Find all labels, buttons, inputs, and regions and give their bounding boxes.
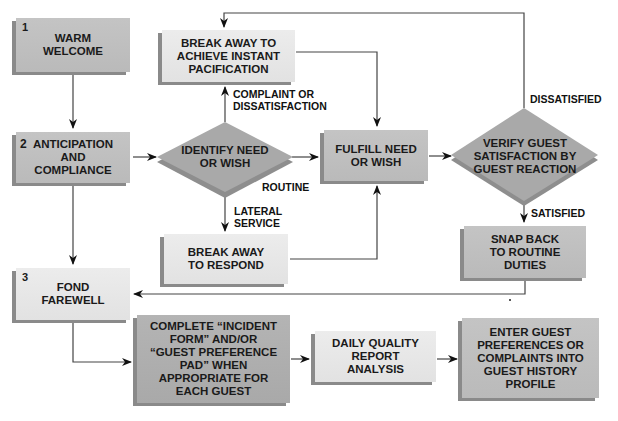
- diamond-verify-label: VERIFY GUEST SATISFACTION BY GUEST REACT…: [460, 135, 590, 177]
- node-snap-back: SNAP BACK TO ROUTINE DUTIES: [464, 226, 586, 278]
- node-label: FOND FAREWELL: [41, 281, 104, 307]
- node-label: IDENTIFY NEED OR WISH: [181, 144, 268, 170]
- step-number-3: 3: [22, 271, 28, 284]
- node-warm-welcome: 1 WARM WELCOME: [16, 18, 130, 72]
- edge-label-dissatisfied: DISSATISFIED: [530, 93, 602, 105]
- arrow-farewell-to-form: [73, 323, 131, 362]
- step-number-2: 2: [20, 138, 27, 151]
- edge-label-complaint: COMPLAINT OR DISSATISFACTION: [233, 88, 327, 112]
- stray-dot: [509, 299, 511, 301]
- node-anticipation-compliance: 2 ANTICIPATION AND COMPLIANCE: [16, 132, 130, 183]
- node-complete-incident-form: COMPLETE “INCIDENT FORM” AND/OR “GUEST P…: [137, 315, 290, 403]
- node-fond-farewell: 3 FOND FAREWELL: [16, 268, 130, 320]
- edge-label-routine: ROUTINE: [262, 181, 309, 193]
- flowchart-canvas: 1 WARM WELCOME BREAK AWAY TO ACHIEVE INS…: [0, 0, 618, 421]
- node-daily-quality-report: DAILY QUALITY REPORT ANALYSIS: [315, 331, 436, 382]
- edge-label-lateral: LATERAL SERVICE: [234, 205, 282, 229]
- node-label: VERIFY GUEST SATISFACTION BY GUEST REACT…: [474, 137, 577, 176]
- step-number-1: 1: [22, 21, 28, 34]
- node-label: COMPLETE “INCIDENT FORM” AND/OR “GUEST P…: [150, 320, 277, 398]
- node-label: BREAK AWAY TO RESPOND: [188, 246, 264, 272]
- node-fulfill-need: FULFILL NEED OR WISH: [324, 130, 428, 181]
- node-label: ENTER GUEST PREFERENCES OR COMPLAINTS IN…: [477, 326, 584, 391]
- edge-label-satisfied: SATISFIED: [531, 207, 585, 219]
- node-break-away-pacification: BREAK AWAY TO ACHIEVE INSTANT PACIFICATI…: [162, 30, 295, 82]
- node-label: ANTICIPATION AND COMPLIANCE: [33, 138, 113, 177]
- node-enter-guest-preferences: ENTER GUEST PREFERENCES OR COMPLAINTS IN…: [462, 318, 599, 398]
- diamond-identify-label: IDENTIFY NEED OR WISH: [165, 140, 285, 174]
- node-break-away-respond: BREAK AWAY TO RESPOND: [164, 234, 288, 284]
- node-label: DAILY QUALITY REPORT ANALYSIS: [332, 337, 419, 376]
- node-label: WARM WELCOME: [43, 32, 103, 58]
- arrow-respond-to-fulfill: [290, 186, 377, 259]
- node-label: SNAP BACK TO ROUTINE DUTIES: [490, 233, 561, 272]
- node-label: FULFILL NEED OR WISH: [335, 143, 417, 169]
- node-label: BREAK AWAY TO ACHIEVE INSTANT PACIFICATI…: [177, 37, 280, 76]
